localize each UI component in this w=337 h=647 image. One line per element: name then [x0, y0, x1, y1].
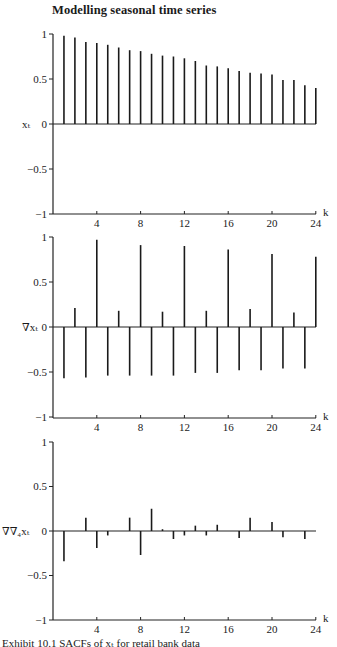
- x-tick-label: 16: [223, 217, 235, 229]
- x-tick-label: 16: [223, 623, 235, 635]
- x-tick-label: 12: [179, 623, 190, 635]
- y-tick-label: 0.5: [33, 73, 47, 85]
- x-tick-label: 24: [310, 217, 322, 229]
- y-tick-label: −0.5: [27, 569, 47, 581]
- sacf-panel-seasonal-diff-xt: 10.50−0.5−1∇∇₄xₜ4812162024k: [2, 436, 329, 636]
- x-tick-label: 8: [138, 217, 144, 229]
- y-tick-label: −1: [35, 614, 47, 626]
- y-tick-label: 1: [42, 436, 48, 448]
- x-tick-label: 24: [310, 623, 322, 635]
- y-tick-label: 0.5: [33, 480, 47, 492]
- chart-area: 10.50−0.5−1xₜ4812162024k 10.50−0.5−1∇xₜ4…: [0, 0, 337, 647]
- y-axis-label: ∇xₜ: [22, 321, 38, 333]
- x-tick-label: 8: [138, 623, 144, 635]
- x-tick-label: 4: [94, 623, 100, 635]
- x-tick-label: 24: [310, 421, 322, 433]
- y-tick-label: 0: [42, 321, 48, 333]
- sacf-panel-xt: 10.50−0.5−1xₜ4812162024k: [22, 28, 329, 230]
- x-tick-label: 12: [179, 217, 190, 229]
- y-tick-label: −0.5: [27, 366, 47, 378]
- x-tick-label: 16: [223, 421, 235, 433]
- y-tick-label: 1: [42, 231, 48, 243]
- x-axis-label: k: [323, 410, 329, 422]
- y-tick-label: 0: [42, 118, 48, 130]
- x-tick-label: 20: [267, 421, 279, 433]
- y-axis-label: ∇∇₄xₜ: [2, 525, 30, 537]
- x-axis-label: k: [323, 206, 329, 218]
- y-tick-label: 1: [42, 28, 48, 40]
- y-tick-label: −1: [35, 411, 47, 423]
- x-axis-label: k: [323, 612, 329, 624]
- y-tick-label: −0.5: [27, 163, 47, 175]
- y-tick-label: −1: [35, 208, 47, 220]
- y-tick-label: 0.5: [33, 276, 47, 288]
- x-tick-label: 20: [267, 217, 279, 229]
- y-axis-label: xₜ: [22, 118, 31, 130]
- y-tick-label: 0: [42, 525, 48, 537]
- x-tick-label: 4: [94, 217, 100, 229]
- x-tick-label: 4: [94, 421, 100, 433]
- x-tick-label: 20: [267, 623, 279, 635]
- figure-caption: Exhibit 10.1 SACFs of xₜ for retail bank…: [2, 637, 200, 647]
- sacf-panel-diff-xt: 10.50−0.5−1∇xₜ4812162024k: [22, 231, 329, 434]
- x-tick-label: 8: [138, 421, 144, 433]
- x-tick-label: 12: [179, 421, 190, 433]
